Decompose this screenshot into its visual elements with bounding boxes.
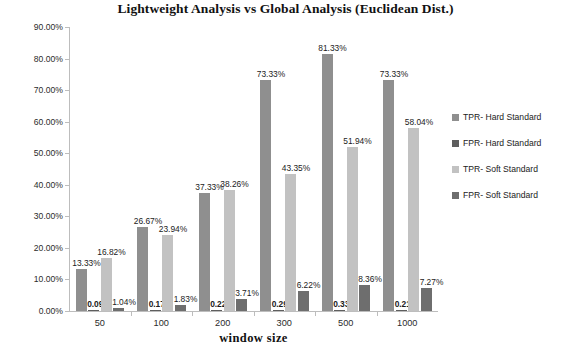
y-axis-tick-label: 20.00% xyxy=(34,243,63,253)
bar-group: 26.67%0.17%23.94%1.83% xyxy=(137,27,186,311)
bar-value-label: 8.36% xyxy=(353,274,387,284)
legend-label: TPR- Hard Standard xyxy=(463,112,541,122)
legend-swatch-icon xyxy=(452,166,459,173)
bar-value-label: 73.33% xyxy=(254,69,288,79)
bar-group: 13.33%0.09%16.82%1.04% xyxy=(76,27,125,311)
chart-container: Lightweight Analysis vs Global Analysis … xyxy=(0,0,571,356)
bar xyxy=(113,308,124,311)
legend-swatch-icon xyxy=(452,114,459,121)
bar xyxy=(211,310,222,311)
legend-label: TPR- Soft Standard xyxy=(463,164,538,174)
bar-group: 37.33%0.22%38.26%3.71% xyxy=(199,27,248,311)
bar xyxy=(347,147,358,311)
bar xyxy=(137,227,148,311)
bar xyxy=(421,288,432,311)
bar xyxy=(273,310,284,311)
y-axis-tick xyxy=(65,185,69,186)
y-axis-tick xyxy=(65,27,69,28)
chart-title: Lightweight Analysis vs Global Analysis … xyxy=(0,1,571,17)
legend-item[interactable]: FPR- Soft Standard xyxy=(452,182,571,208)
x-axis-category-label: 1000 xyxy=(377,318,437,328)
bar xyxy=(298,291,309,311)
x-axis-category-label: 300 xyxy=(254,318,314,328)
bar-value-label: 13.33% xyxy=(70,258,104,268)
x-axis-category-label: 100 xyxy=(131,318,191,328)
x-axis-category-label: 500 xyxy=(316,318,376,328)
bar xyxy=(334,310,345,311)
x-axis-tick xyxy=(131,312,132,316)
chart-legend: TPR- Hard StandardFPR- Hard StandardTPR-… xyxy=(452,104,571,208)
bar xyxy=(175,305,186,311)
bar-value-label: 7.27% xyxy=(415,277,449,287)
bar xyxy=(359,285,370,311)
y-axis-tick-label: 10.00% xyxy=(34,274,63,284)
bar-value-label: 1.83% xyxy=(169,294,203,304)
bar-value-label: 16.82% xyxy=(95,247,129,257)
x-axis-category-label: 200 xyxy=(193,318,253,328)
y-axis-tick-label: 60.00% xyxy=(34,117,63,127)
legend-label: FPR- Hard Standard xyxy=(463,138,541,148)
plot-area: 13.33%0.09%16.82%1.04%26.67%0.17%23.94%1… xyxy=(69,27,438,312)
bar xyxy=(199,193,210,311)
legend-swatch-icon xyxy=(452,192,459,199)
bar xyxy=(383,80,394,311)
bar-group: 73.33%0.21%58.04%7.27% xyxy=(383,27,432,311)
x-axis-tick xyxy=(377,312,378,316)
y-axis-tick xyxy=(65,153,69,154)
y-axis-tick-label: 40.00% xyxy=(34,180,63,190)
y-axis-tick xyxy=(65,311,69,312)
y-axis-tick-label: 90.00% xyxy=(34,22,63,32)
legend-label: FPR- Soft Standard xyxy=(463,190,538,200)
bar-value-label: 3.71% xyxy=(230,288,264,298)
bar xyxy=(322,54,333,311)
y-axis-tick-label: 70.00% xyxy=(34,85,63,95)
bar xyxy=(236,299,247,311)
legend-item[interactable]: TPR- Soft Standard xyxy=(452,156,571,182)
y-axis-tick-label: 50.00% xyxy=(34,148,63,158)
x-axis-title: window size xyxy=(69,331,438,346)
y-axis-line xyxy=(69,27,70,312)
bar xyxy=(150,310,161,311)
y-axis-tick-label: 30.00% xyxy=(34,211,63,221)
bar-value-label: 43.35% xyxy=(279,163,313,173)
bar-value-label: 73.33% xyxy=(377,69,411,79)
y-axis-tick xyxy=(65,59,69,60)
y-axis-tick xyxy=(65,216,69,217)
y-axis-tick xyxy=(65,122,69,123)
bar-value-label: 23.94% xyxy=(156,224,190,234)
x-axis-tick xyxy=(192,312,193,316)
x-axis-tick xyxy=(254,312,255,316)
y-axis-tick-label: 80.00% xyxy=(34,54,63,64)
bar-value-label: 58.04% xyxy=(402,117,436,127)
bar-group: 81.33%0.33%51.94%8.36% xyxy=(322,27,371,311)
legend-item[interactable]: FPR- Hard Standard xyxy=(452,130,571,156)
bar-value-label: 81.33% xyxy=(316,43,350,53)
bar-group: 73.33%0.29%43.35%6.22% xyxy=(260,27,309,311)
x-axis-tick xyxy=(315,312,316,316)
bar-value-label: 51.94% xyxy=(341,136,375,146)
y-axis-tick xyxy=(65,279,69,280)
y-axis-tick-label: 0.00% xyxy=(39,306,63,316)
y-axis-tick xyxy=(65,90,69,91)
legend-item[interactable]: TPR- Hard Standard xyxy=(452,104,571,130)
bar-value-label: 38.26% xyxy=(218,179,252,189)
bar xyxy=(396,310,407,311)
y-axis-tick xyxy=(65,248,69,249)
bar-value-label: 6.22% xyxy=(292,280,326,290)
bar-value-label: 1.04% xyxy=(107,297,141,307)
legend-swatch-icon xyxy=(452,140,459,147)
bar xyxy=(285,174,296,311)
bar xyxy=(260,80,271,311)
y-axis-labels: 90.00%80.00%70.00%60.00%50.00%40.00%30.0… xyxy=(0,27,69,312)
x-axis-category-label: 50 xyxy=(70,318,130,328)
bar xyxy=(88,310,99,311)
